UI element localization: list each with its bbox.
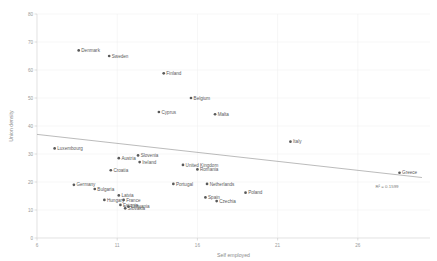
- x-axis-title: Self employed: [217, 252, 250, 258]
- data-point-label: Netherlands: [210, 182, 235, 187]
- data-point-label: Ireland: [142, 160, 156, 165]
- data-point-label: Austria: [121, 156, 136, 161]
- data-point-label: Cyprus: [162, 110, 177, 115]
- data-point-label: Malta: [218, 112, 230, 117]
- data-point-label: Luxembourg: [57, 146, 83, 151]
- data-point-marker: [182, 164, 185, 167]
- data-point-marker: [117, 194, 120, 197]
- data-point-marker: [214, 113, 217, 116]
- data-point-marker: [122, 199, 125, 202]
- y-tick-label: 50: [28, 96, 34, 101]
- x-tick-label: 21: [275, 243, 281, 248]
- data-point-label: Belgium: [194, 96, 211, 101]
- y-tick-label: 70: [28, 40, 34, 45]
- data-point-label: Portugal: [176, 182, 193, 187]
- data-point-label: Romania: [200, 167, 219, 172]
- data-point-marker: [77, 49, 80, 52]
- data-point-marker: [398, 171, 401, 174]
- x-tick-label: 6: [36, 243, 39, 248]
- r-squared-annotation: R² = 0.1599: [375, 184, 399, 189]
- data-point-label: Czechia: [219, 199, 236, 204]
- data-point-marker: [244, 191, 247, 194]
- data-point-label: Italy: [293, 139, 302, 144]
- data-point-marker: [53, 147, 56, 150]
- data-point-marker: [196, 168, 199, 171]
- data-point-marker: [117, 157, 120, 160]
- trendline: [37, 134, 422, 177]
- y-tick-label: 60: [28, 68, 34, 73]
- x-tick-label: 16: [195, 243, 201, 248]
- data-point-label: Greece: [402, 170, 418, 175]
- data-point-marker: [215, 200, 218, 203]
- data-point-marker: [289, 140, 292, 143]
- data-point-marker: [103, 199, 106, 202]
- y-tick-label: 40: [28, 124, 34, 129]
- data-point-marker: [138, 161, 141, 164]
- data-point-label: Sweden: [112, 54, 129, 59]
- y-tick-label: 80: [28, 12, 34, 17]
- x-tick-label: 26: [355, 243, 361, 248]
- y-axis-title: Union density: [8, 110, 14, 142]
- data-point-label: Slovenia: [141, 153, 159, 158]
- y-tick-label: 0: [30, 236, 33, 241]
- data-point-marker: [137, 154, 140, 157]
- data-point-marker: [162, 72, 165, 75]
- data-point-marker: [93, 188, 96, 191]
- data-point-marker: [124, 207, 127, 210]
- x-tick-label: 11: [115, 243, 120, 248]
- data-point-marker: [109, 169, 112, 172]
- data-point-label: Finland: [166, 71, 182, 76]
- scatter-chart: 01020304050607080611162126Self employedU…: [0, 0, 437, 261]
- data-point-label: Slovakia: [128, 206, 146, 211]
- data-point-marker: [108, 55, 111, 58]
- data-point-label: Bulgaria: [97, 187, 114, 192]
- data-point-marker: [158, 111, 161, 114]
- data-point-marker: [204, 196, 207, 199]
- y-tick-label: 30: [28, 152, 34, 157]
- data-point-marker: [206, 183, 209, 186]
- data-point-marker: [190, 97, 193, 100]
- y-tick-label: 20: [28, 180, 34, 185]
- data-point-label: Poland: [248, 190, 263, 195]
- data-point-marker: [73, 183, 76, 186]
- data-point-label: Denmark: [81, 48, 100, 53]
- y-tick-label: 10: [28, 208, 34, 213]
- data-point-marker: [172, 183, 175, 186]
- data-point-label: Croatia: [113, 168, 128, 173]
- data-point-marker: [119, 204, 122, 207]
- chart-canvas: 01020304050607080611162126Self employedU…: [0, 0, 437, 261]
- data-point-label: Germany: [76, 182, 96, 187]
